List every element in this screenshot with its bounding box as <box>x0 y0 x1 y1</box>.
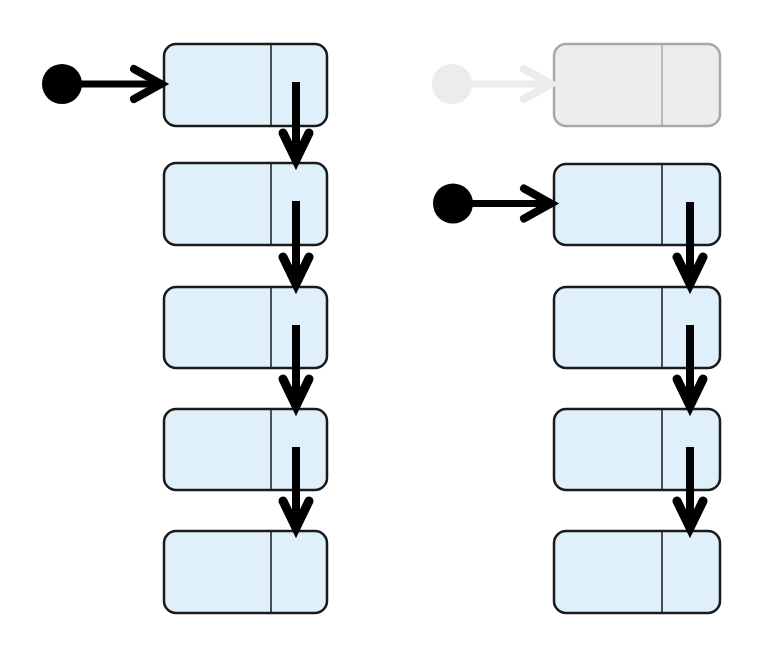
node-box <box>554 44 720 126</box>
node-box <box>554 164 720 245</box>
list-node <box>164 163 327 245</box>
linked-list-diagram <box>0 0 757 650</box>
list-node <box>164 409 327 490</box>
node-box <box>164 163 327 245</box>
list-node <box>164 287 327 368</box>
node-box <box>164 287 327 368</box>
list-node <box>554 531 720 613</box>
node-box <box>164 409 327 490</box>
list-node <box>164 44 327 126</box>
list-before <box>42 44 327 613</box>
list-node <box>554 409 720 490</box>
node-box <box>164 531 327 613</box>
removed-node <box>554 44 720 126</box>
node-box <box>164 44 327 126</box>
list-node <box>164 531 327 613</box>
head-pointer <box>433 184 551 224</box>
node-box <box>554 531 720 613</box>
list-after <box>432 44 720 613</box>
node-box <box>554 409 720 490</box>
node-box <box>554 287 720 368</box>
list-node <box>554 164 720 245</box>
old-head-pointer <box>432 64 551 104</box>
head-pointer <box>42 64 161 104</box>
list-node <box>554 287 720 368</box>
